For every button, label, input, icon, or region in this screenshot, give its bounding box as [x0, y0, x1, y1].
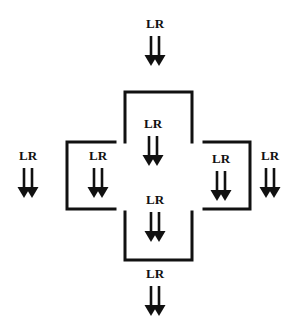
lr-cross-diagram: LRLRLRLRLRLRLRLR [0, 0, 300, 336]
arrow-group-top-outside: LR [145, 16, 166, 66]
down-arrow-icon [153, 231, 166, 242]
arrow-group-left-inside: LR [88, 148, 109, 198]
down-arrow-icon [219, 190, 232, 201]
arrow-group-center: LR [145, 192, 166, 242]
arrow-group-bottom-outside: LR [145, 266, 166, 316]
down-arrow-icon [268, 187, 281, 198]
lr-label: LR [89, 148, 108, 163]
down-arrow-icon [26, 187, 39, 198]
arrow-group-top-inside: LR [143, 116, 164, 166]
down-arrow-icon [153, 55, 166, 66]
lr-label: LR [212, 151, 231, 166]
down-arrow-icon [96, 187, 109, 198]
lr-label: LR [261, 148, 280, 163]
arrow-group-left-outside: LR [18, 148, 39, 198]
down-arrow-icon [153, 305, 166, 316]
lr-label: LR [146, 16, 165, 31]
lr-label: LR [144, 116, 163, 131]
lr-label: LR [19, 148, 38, 163]
lr-label: LR [146, 266, 165, 281]
arrow-group-right-outside: LR [260, 148, 281, 198]
down-arrow-icon [151, 155, 164, 166]
arrow-groups: LRLRLRLRLRLRLRLR [18, 16, 281, 316]
lr-label: LR [146, 192, 165, 207]
arrow-group-right-inside: LR [211, 151, 232, 201]
